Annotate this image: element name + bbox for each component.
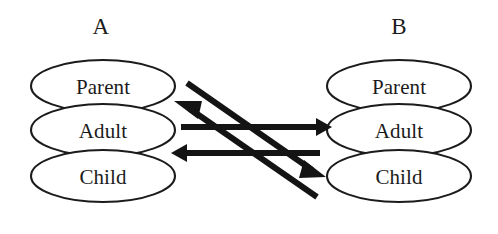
label-a-parent: Parent [76,75,130,99]
label-b-child: Child [375,165,423,189]
arrow-b-child-to-a-parent [174,101,317,197]
label-b-parent: Parent [372,75,426,99]
label-a-child: Child [79,165,127,189]
diagram-canvas: A B Parent Adult Child Parent Adult Chil… [0,0,498,234]
column-label-a: A [93,14,110,39]
arrowhead-left-icon [171,144,187,162]
label-b-adult: Adult [375,119,423,143]
column-label-b: B [391,14,407,39]
transaction-diagram: A B Parent Adult Child Parent Adult Chil… [0,0,498,234]
arrowhead-up-left-icon [174,101,202,119]
column-a-group: Parent Adult Child [31,60,175,202]
label-a-adult: Adult [79,119,127,143]
arrows-group [171,83,332,197]
column-b-group: Parent Adult Child [327,60,471,202]
arrow-b-parent-to-a-child [187,83,326,178]
